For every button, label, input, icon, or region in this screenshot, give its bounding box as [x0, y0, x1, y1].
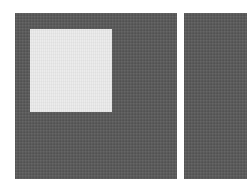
light-square [30, 29, 112, 112]
image-comparison-stage [0, 0, 247, 191]
right-noise-panel [184, 13, 247, 179]
left-noise-panel [15, 13, 177, 179]
